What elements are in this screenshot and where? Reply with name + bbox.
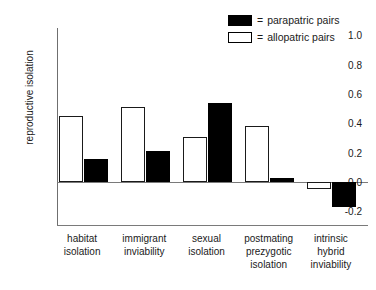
x-category-label-line: isolation	[175, 245, 237, 258]
chart-figure: = parapatric pairs = allopatric pairs re…	[0, 0, 376, 290]
x-category-label-line: intrinsic	[300, 232, 362, 245]
x-category-label-line: prezygotic	[238, 245, 300, 258]
x-category-label: immigrantinviability	[113, 232, 175, 258]
x-category-label-line: hybrid	[300, 245, 362, 258]
x-category-label: postmatingprezygoticisolation	[238, 232, 300, 271]
bar-parapatric-2	[146, 151, 170, 182]
y-tick-label: 0.4	[348, 118, 362, 129]
bar-allopatric-4	[245, 126, 269, 182]
y-tick-label: 1.0	[348, 30, 362, 41]
x-axis-line	[57, 225, 368, 226]
bar-allopatric-3	[183, 137, 207, 182]
legend-swatch-parapatric	[228, 15, 252, 26]
x-category-label-line: inviability	[113, 245, 175, 258]
x-category-label-line: inviability	[300, 258, 362, 271]
y-tick-label: 0.2	[348, 147, 362, 158]
legend-label-parapatric: parapatric pairs	[267, 15, 339, 26]
bar-parapatric-5	[332, 182, 356, 207]
y-axis-label: reproductive isolation	[24, 23, 35, 173]
bar-parapatric-3	[208, 103, 232, 182]
x-category-label-line: postmating	[238, 232, 300, 245]
y-tick-label: 0.8	[348, 59, 362, 70]
legend-equals-parapatric: =	[257, 15, 263, 26]
bar-parapatric-1	[84, 159, 108, 182]
x-category-label-line: isolation	[51, 245, 113, 258]
bar-allopatric-5	[307, 182, 331, 189]
x-category-label-line: sexual	[175, 232, 237, 245]
x-category-label-line: isolation	[238, 258, 300, 271]
x-category-label-line: habitat	[51, 232, 113, 245]
y-tick-label: 0.6	[348, 89, 362, 100]
bar-allopatric-1	[59, 116, 83, 182]
bar-allopatric-2	[121, 107, 145, 182]
y-tick-label: -0.2	[345, 206, 362, 217]
bar-parapatric-4	[270, 178, 294, 182]
x-category-label: sexualisolation	[175, 232, 237, 258]
x-axis-category-labels: habitatisolationimmigrantinviabilitysexu…	[57, 232, 368, 282]
x-category-label: intrinsichybridinviability	[300, 232, 362, 271]
plot-area: 1.00.80.60.40.20.0-0.2	[57, 28, 368, 226]
x-category-label: habitatisolation	[51, 232, 113, 258]
x-category-label-line: immigrant	[113, 232, 175, 245]
legend-item-parapatric: = parapatric pairs	[228, 13, 370, 28]
